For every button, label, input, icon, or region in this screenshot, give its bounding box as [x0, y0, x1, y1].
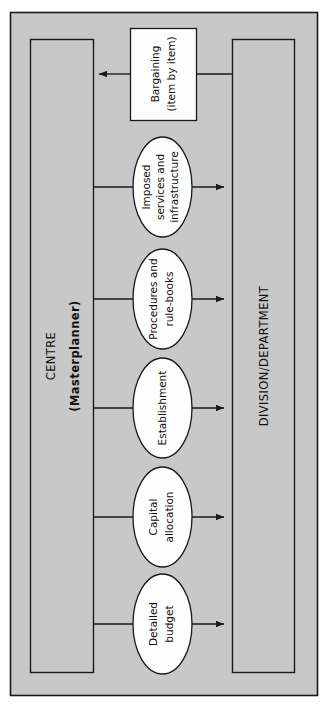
centre-column-label: CENTRE [44, 332, 58, 381]
diagram-canvas: CENTRE (Masterplanner) DIVISION/DEPARTME… [0, 0, 329, 704]
capital-allocation-label-line1: Capital [147, 499, 159, 536]
detailed-budget-label-line2: budget [163, 605, 175, 642]
imposed-services-label-line2: services and [154, 154, 166, 220]
bargaining-node-label-line2: (item by item) [165, 36, 177, 111]
bargaining-node-box[interactable] [131, 29, 197, 121]
centre-column-sublabel: (Masterplanner) [68, 300, 82, 411]
imposed-services-label-line3: infrastructure [168, 151, 180, 223]
centre-column-box[interactable] [31, 40, 94, 673]
division-department-label: DIVISION/DEPARTMENT [257, 285, 271, 426]
bargaining-node-label-line1: Bargaining [149, 46, 161, 103]
imposed-services-label-line1: Imposed [140, 164, 152, 209]
procedures-label-line1: Procedures and [147, 258, 159, 339]
establishment-label: Establishment [156, 371, 168, 446]
centre-column[interactable]: CENTRE (Masterplanner) [31, 40, 94, 673]
capital-allocation-label-line2: allocation [163, 491, 175, 542]
division-department-column[interactable]: DIVISION/DEPARTMENT [233, 40, 295, 673]
procedures-label-line2: rule-books [163, 271, 175, 326]
detailed-budget-label-line1: Detailed [147, 602, 159, 646]
